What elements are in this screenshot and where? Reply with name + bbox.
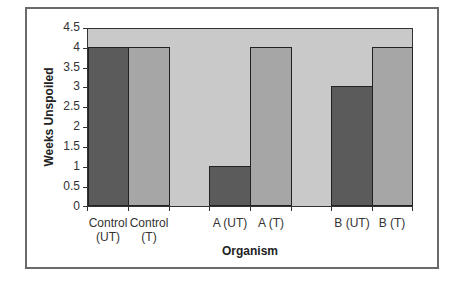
y-tick-mark	[83, 147, 87, 148]
x-axis-title: Organism	[200, 244, 300, 258]
y-tick-mark	[83, 87, 87, 88]
x-label-a-t: A (T)	[241, 216, 301, 230]
y-tick-label: 0.5	[50, 179, 80, 193]
y-axis-title: Weeks Unspoiled	[42, 57, 56, 177]
bar-b-ut	[331, 86, 373, 206]
y-tick-label: 4.5	[50, 20, 80, 34]
x-tick-mark	[412, 207, 413, 211]
bar-a-ut	[209, 166, 251, 206]
x-label-b-t: B (T)	[362, 216, 422, 230]
x-tick-mark	[291, 207, 292, 211]
plot-area	[87, 28, 413, 207]
bar-control-t	[128, 47, 170, 206]
y-tick-mark	[83, 68, 87, 69]
bar-control-ut	[88, 47, 129, 206]
bar-b-t	[372, 47, 413, 206]
x-tick-mark	[169, 207, 170, 211]
y-tick-label: 0	[50, 199, 80, 213]
y-tick-mark	[83, 48, 87, 49]
x-tick-mark	[128, 207, 129, 211]
x-tick-mark	[250, 207, 251, 211]
y-tick-mark	[83, 28, 87, 29]
x-label-line: (T)	[119, 230, 179, 244]
x-tick-mark	[87, 207, 88, 211]
x-label-line: Control	[119, 216, 179, 230]
y-tick-mark	[83, 167, 87, 168]
x-tick-mark	[372, 207, 373, 211]
x-tick-mark	[209, 207, 210, 211]
y-tick-mark	[83, 127, 87, 128]
bar-a-t	[250, 47, 292, 206]
y-tick-mark	[83, 187, 87, 188]
x-tick-mark	[331, 207, 332, 211]
y-tick-label: 4	[50, 40, 80, 54]
x-label-control-t: Control (T)	[119, 216, 179, 244]
y-tick-mark	[83, 107, 87, 108]
